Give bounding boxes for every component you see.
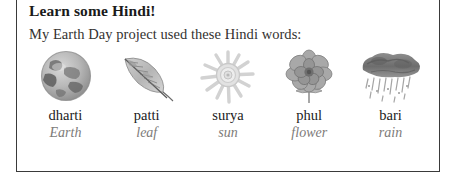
english-gloss: Earth [50,126,82,141]
list-item: dharti Earth [25,48,106,141]
english-gloss: rain [379,126,402,141]
english-gloss: flower [291,126,327,141]
list-item: phul flower [269,48,350,141]
flower-illustration [273,48,345,106]
hindi-term: phul [296,108,322,123]
page-title: Learn some Hindi! [29,2,156,20]
list-item: patti leaf [106,48,187,141]
leaf-illustration [111,48,183,106]
english-gloss: sun [218,126,237,141]
hindi-term: surya [212,108,243,123]
english-gloss: leaf [136,126,157,141]
earth-globe-illustration [30,48,102,106]
word-list: dharti Earth patti [25,48,431,141]
subtitle-text: My Earth Day project used these Hindi wo… [29,26,301,43]
list-item: surya sun [188,48,269,141]
list-item: bari rain [350,48,431,141]
sun-illustration [192,48,264,106]
hindi-words-card: Learn some Hindi! My Earth Day project u… [16,0,440,172]
hindi-term: dharti [49,108,83,123]
rain-cloud-illustration [355,48,427,106]
hindi-term: bari [379,108,402,123]
hindi-term: patti [134,108,160,123]
